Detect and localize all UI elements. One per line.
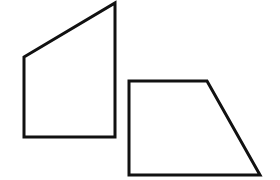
- left-quadrilateral: [24, 3, 115, 137]
- right-trapezoid: [129, 81, 260, 175]
- diagram-canvas: [0, 0, 280, 180]
